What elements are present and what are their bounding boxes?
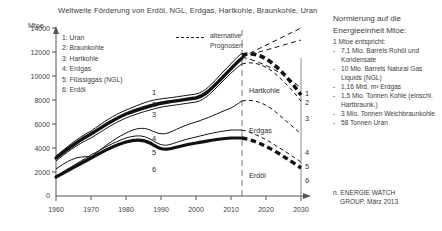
inner-curve-number-5: 5 [152,148,156,157]
right-curve-number-3: 3 [305,114,309,123]
x-axis-arrow [303,193,311,199]
legend-label-erdoel: Erdöl [70,86,86,93]
band-label-erdoel: Erdöl [249,171,266,180]
right-curve-number-4: 4 [305,148,309,157]
panel-heading-line1: Normierung auf die [333,14,441,25]
bullet-dash-icon: - [333,83,335,92]
panel-item-text: 58 Tonnen Uran [341,119,388,126]
panel-item-text: 3 Mio. Tonnen Weichbraunkohle [341,110,435,117]
bullet-dash-icon: - [333,92,335,101]
bullet-dash-icon: - [333,65,335,74]
band-label-erdgas: Erdgas [249,126,272,135]
y-tick-marks [52,28,56,172]
right-curve-number-6: 6 [305,176,309,185]
legend-item-uran: 1: Uran [62,33,122,43]
legend-label-ngl: Flüssiggas (NGL) [70,76,123,83]
legend-item-ngl: 5: Flüssiggas (NGL) [62,75,122,85]
panel-subheading: 1 Mtoe entspricht: [333,37,441,46]
legend-num-4: 4: [62,65,68,72]
panel-item-uran: - 58 Tonnen Uran [333,119,441,128]
legend-item-braunkohle: 2: Braunkohle [62,43,122,53]
legend-label-braunkohle: Braunkohle [70,44,104,51]
chart-root: Weltweite Förderung von Erdöl, NGL, Erdg… [0,0,442,231]
legend-num-3: 3: [62,55,68,62]
alternative-prognosen-legend: alternative Prognosen [210,31,243,52]
panel-item-text: 10 Mio. Barrels Natural Gas Liquids (NGL… [341,65,422,81]
legend-label-hartkohle: Hartkohle [70,55,99,62]
legend-item-hartkohle: 3: Hartkohle [62,54,122,64]
alternative-prognosen-dash-sample [176,37,204,38]
panel-item-kohle: - 1,5 Mio. Tonnen Kohle (einschl. Hartbr… [333,92,441,109]
y-axis-arrow [53,26,59,34]
legend-num-2: 2: [62,44,68,51]
inner-curve-number-4: 4 [152,134,156,143]
panel-heading-line2: Energieeinheit Mtoe: [333,26,441,37]
normalization-panel: Normierung auf die Energieeinheit Mtoe: … [333,14,441,128]
source-line2: GROUP, März 2013 [333,198,441,207]
legend-label-uran: Uran [70,34,85,41]
panel-item-text: 1,16 Mrd. m³ Erdgas [341,83,401,90]
bullet-dash-icon: - [333,47,335,56]
inner-curve-number-2: 2 [152,100,156,109]
alternative-prognosen-line1: alternative [210,31,243,41]
curve-erdoel-forecast [242,138,301,168]
legend-num-1: 1: [62,34,68,41]
panel-item-weichbraunkohle: - 3 Mio. Tonnen Weichbraunkohle [333,110,441,119]
panel-item-erdgas: - 1,16 Mrd. m³ Erdgas [333,83,441,92]
legend-item-erdgas: 4: Erdgas [62,64,122,74]
legend-label-erdgas: Erdgas [70,65,92,72]
right-curve-number-1: 1 [305,89,309,98]
curve-hartkohle-forecast [242,63,301,101]
inner-curve-number-3: 3 [152,110,156,119]
legend-num-5: 5: [62,76,68,83]
right-curve-number-2: 2 [305,98,309,107]
alternative-prognosen-line2: Prognosen [210,41,243,51]
bullet-dash-icon: - [333,110,335,119]
panel-item-text: 1,5 Mio. Tonnen Kohle (einschl. Hartbrau… [341,92,433,108]
panel-item-ngl: - 10 Mio. Barrels Natural Gas Liquids (N… [333,65,441,82]
bullet-dash-icon: - [333,119,335,128]
curve-erdoel-historic [56,138,242,177]
source-line1: n. ENERGIE WATCH [333,189,441,198]
legend-item-erdoel: 6: Erdöl [62,85,122,95]
alternative-prognose-line-2 [242,40,301,57]
inner-curve-number-6: 6 [152,165,156,174]
right-curve-number-5: 5 [305,162,309,171]
inner-curve-number-1: 1 [152,88,156,97]
source-attribution: n. ENERGIE WATCH GROUP, März 2013 [333,189,441,206]
panel-item-text: 7,1 Mio. Barrels Rohöl und Kondensate [341,47,419,63]
legend-num-6: 6: [62,86,68,93]
curve-legend: 1: Uran 2: Braunkohle 3: Hartkohle 4: Er… [62,33,122,95]
panel-item-list: - 7,1 Mio. Barrels Rohöl und Kondensate … [333,47,441,128]
x-tick-marks [56,196,301,201]
panel-item-rohoel: - 7,1 Mio. Barrels Rohöl und Kondensate [333,47,441,64]
band-label-hartkohle: Hartkohle [249,86,280,95]
